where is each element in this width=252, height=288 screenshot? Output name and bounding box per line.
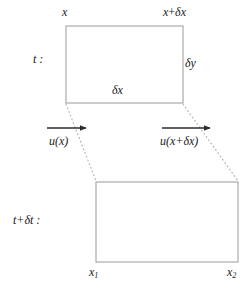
- label-time-t: t :: [33, 53, 43, 65]
- label-x-right-delta: δx: [175, 5, 186, 19]
- upper-element-box: [66, 26, 183, 103]
- label-x-plus-delta-x: x+δx: [163, 6, 186, 18]
- label-time-t-plus-delta-t: t+δt :: [13, 214, 40, 226]
- label-x2-subscript: 2: [232, 271, 236, 280]
- label-delta-y: δy: [185, 57, 196, 69]
- label-x-two: x2: [227, 266, 236, 280]
- label-velocity-u-of-x-plus-delta-x: u(x+δx): [160, 135, 198, 147]
- fluid-element-advection-diagram: x x+δx t : δy δx u(x) u(x+δx) t+δt : x1 …: [0, 0, 252, 288]
- diagram-vector-layer: [0, 0, 252, 288]
- label-x1-subscript: 1: [94, 271, 98, 280]
- label-x-left: x: [62, 6, 67, 18]
- connector-left-dotted-line: [66, 104, 96, 181]
- label-x-one: x1: [89, 266, 98, 280]
- lower-element-box: [96, 182, 238, 262]
- label-velocity-u-of-x: u(x): [49, 135, 68, 147]
- label-delta-x: δx: [112, 84, 123, 96]
